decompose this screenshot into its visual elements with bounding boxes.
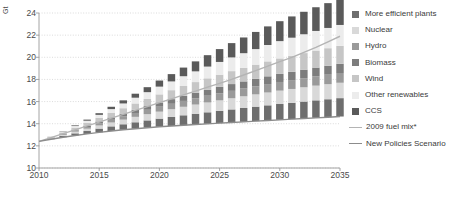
bar-segment: [192, 61, 199, 71]
bar-segment: [156, 107, 163, 112]
bar-segment: [204, 55, 211, 66]
bar-segment: [120, 116, 127, 119]
bar-stack: [324, 3, 331, 117]
bar-segment: [228, 57, 235, 71]
bar-segment: [132, 94, 139, 98]
bar-segment: [240, 53, 247, 68]
legend-item[interactable]: Hydro: [352, 38, 451, 54]
bar-segment: [216, 62, 223, 75]
bar-segment: [276, 104, 283, 120]
bar-segment: [336, 64, 343, 73]
bar-segment: [83, 121, 90, 123]
bar-segment: [300, 34, 307, 53]
bar-segment: [228, 84, 235, 91]
legend-item-label: CCS: [365, 107, 382, 115]
bar-segment: [168, 81, 175, 90]
bar-segment: [228, 109, 235, 122]
bar-segment: [252, 49, 259, 65]
bar-segment: [144, 110, 151, 114]
bar-segment: [336, 0, 343, 25]
bar-segment: [83, 120, 90, 121]
bar-segment: [240, 37, 247, 53]
legend-color-swatch: [352, 11, 359, 18]
bar-segment: [276, 91, 283, 104]
bar-segment: [312, 100, 319, 117]
bar-segment: [288, 38, 295, 56]
bar-segment: [180, 107, 187, 116]
legend-item[interactable]: Nuclear: [352, 22, 451, 38]
bar-segment: [300, 12, 307, 34]
bar-segment: [180, 101, 187, 107]
bar-segment: [288, 103, 295, 119]
legend-item-label: 2009 fuel mix*: [366, 123, 417, 131]
bar-segment: [132, 98, 139, 104]
bar-stack: [252, 32, 259, 121]
bar-segment: [192, 105, 199, 114]
bar-stack: [276, 21, 283, 120]
bar-segment: [95, 113, 102, 115]
legend-item[interactable]: Other renewables: [352, 87, 451, 103]
legend-item[interactable]: CCS: [352, 103, 451, 119]
bar-segment: [132, 103, 139, 109]
legend-item[interactable]: More efficient plants: [352, 6, 451, 22]
legend-item[interactable]: Biomass: [352, 55, 451, 71]
bar-segment: [95, 125, 102, 128]
bar-stack: [288, 16, 295, 119]
bar-segment: [312, 76, 319, 85]
bar-segment: [276, 82, 283, 91]
bar-segment: [324, 3, 331, 28]
bar-segment: [324, 84, 331, 99]
bar-stack: [216, 49, 223, 123]
bar-segment: [180, 68, 187, 77]
legend-color-swatch: [352, 27, 359, 34]
bar-segment: [216, 111, 223, 123]
bar-segment: [71, 126, 78, 128]
bar-segment: [192, 98, 199, 104]
bar-segment: [300, 102, 307, 119]
bar-segment: [204, 112, 211, 124]
legend-item[interactable]: Wind: [352, 71, 451, 87]
bar-segment: [240, 81, 247, 88]
legend-item-label: Wind: [365, 75, 383, 83]
bar-segment: [168, 74, 175, 81]
bar-segment: [204, 96, 211, 103]
bar-segment: [120, 103, 127, 108]
bar-segment: [240, 89, 247, 97]
bar-segment: [252, 32, 259, 49]
bar-stack: [312, 7, 319, 118]
bar-segment: [192, 93, 199, 99]
bar-segment: [144, 87, 151, 92]
legend-item[interactable]: 2009 fuel mix*: [352, 119, 451, 135]
bar-segment: [324, 66, 331, 75]
bar-segment: [324, 48, 331, 65]
legend-item[interactable]: New Policies Scenario: [352, 136, 451, 152]
bar-segment: [180, 96, 187, 101]
bar-segment: [71, 125, 78, 126]
bar-segment: [71, 132, 78, 134]
bar-segment: [216, 87, 223, 93]
bar-segment: [312, 86, 319, 101]
bar-segment: [120, 120, 127, 125]
bar-segment: [312, 68, 319, 77]
bar-segment: [132, 113, 139, 117]
bar-segment: [300, 53, 307, 70]
bar-segment: [108, 122, 115, 126]
bar-segment: [252, 107, 259, 122]
bar-segment: [216, 75, 223, 87]
bar-segment: [276, 74, 283, 82]
bar-segment: [276, 41, 283, 58]
bar-segment: [168, 117, 175, 126]
bar-stack: [336, 0, 343, 117]
bar-segment: [288, 72, 295, 80]
legend-color-swatch: [352, 92, 359, 99]
bar-segment: [300, 70, 307, 79]
bar-segment: [252, 79, 259, 86]
bar-segment: [312, 51, 319, 68]
bar-segment: [288, 80, 295, 89]
legend-item-label: Nuclear: [365, 26, 393, 34]
legend-line-marker: [349, 127, 362, 128]
bar-segment: [336, 83, 343, 98]
bar-segment: [168, 104, 175, 109]
bar-segment: [264, 45, 271, 61]
chart-legend: More efficient plantsNuclearHydroBiomass…: [352, 6, 451, 152]
